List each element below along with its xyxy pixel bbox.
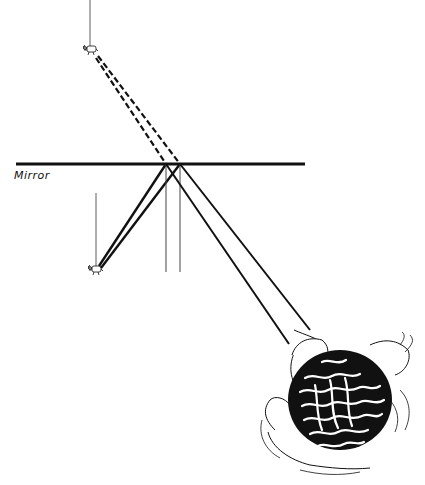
reflected-ray-2	[180, 164, 310, 330]
incident-ray-1	[99, 164, 166, 266]
mirror-reflection-diagram	[0, 0, 425, 485]
virtual-ray-1	[96, 58, 166, 164]
virtual-ray-2	[98, 56, 180, 164]
reflected-ray-1	[166, 164, 289, 344]
virtual-object-icon	[83, 45, 98, 55]
incident-ray-2	[101, 164, 180, 268]
mirror-label: Mirror	[14, 169, 50, 182]
observer-head-illustration	[261, 330, 413, 474]
